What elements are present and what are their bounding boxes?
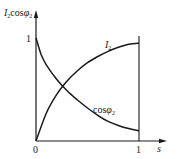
x-tick-one: 1 <box>136 144 141 155</box>
chart: I2cosφ2 1 0 1 s I2 cosφ2 <box>0 0 179 159</box>
curve-i2-label: I2 <box>104 39 111 51</box>
curve-cos-phi2 <box>36 38 139 131</box>
y-axis-arrow-icon <box>34 10 38 18</box>
y-tick-one: 1 <box>26 33 31 44</box>
x-axis-label: s <box>157 143 161 154</box>
curve-i2 <box>36 43 139 141</box>
y-axis-label: I2cosφ2 <box>3 7 32 19</box>
curve-cos-phi2-label: cosφ2 <box>93 104 115 116</box>
x-tick-zero: 0 <box>33 144 38 155</box>
